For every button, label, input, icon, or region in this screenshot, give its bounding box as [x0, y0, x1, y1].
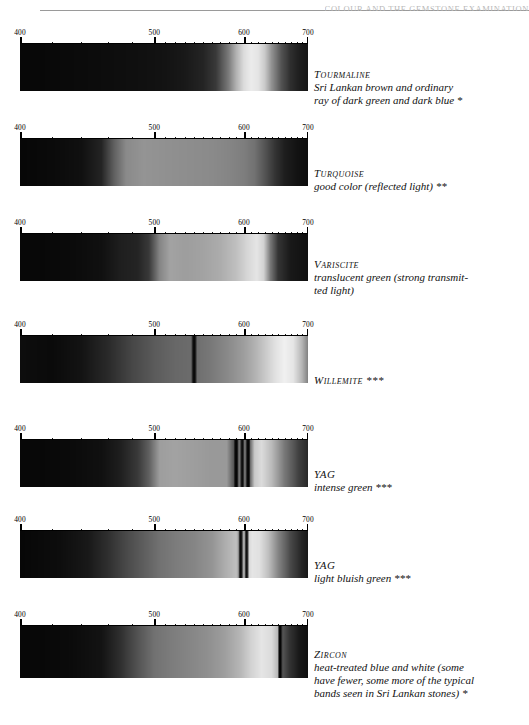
gemstone-description: good color (reflected light) **: [314, 180, 529, 193]
description-line: bands seen in Sri Lankan stones) *: [314, 687, 529, 700]
axis-tick-label: 500: [149, 515, 161, 524]
gemstone-name: Tourmaline: [314, 68, 529, 81]
description-line: light bluish green ***: [314, 572, 529, 585]
axis-tick-label: 400: [14, 123, 26, 132]
axis-tick-label: 500: [149, 218, 161, 227]
axis-tick-label: 700: [302, 424, 314, 433]
description-line: Willemite ***: [314, 374, 529, 387]
axis-tick-label: 400: [14, 424, 26, 433]
axis-tick-label: 600: [238, 123, 250, 132]
axis-tick-label: 700: [302, 320, 314, 329]
spectrum-bar: [20, 234, 308, 281]
spectrum-bar: [20, 440, 308, 487]
page-header-text: COLOUR AND THE GEMSTONE EXAMINATION: [325, 4, 529, 11]
axis-tick-label: 400: [14, 610, 26, 619]
description-line: ray of dark green and dark blue *: [314, 94, 529, 107]
description-line: intense green ***: [314, 481, 529, 494]
axis-tick-label: 600: [238, 515, 250, 524]
axis-tick-label: 600: [238, 610, 250, 619]
gemstone-description: light bluish green ***: [314, 572, 529, 585]
spectrum-caption: YAGlight bluish green ***: [314, 559, 529, 585]
gemstone-name: YAG: [314, 468, 529, 481]
spectrum-bar: [20, 531, 308, 578]
axis-tick-label: 700: [302, 515, 314, 524]
gemstone-description: Sri Lankan brown and ordinaryray of dark…: [314, 81, 529, 107]
axis-tick-label: 600: [238, 424, 250, 433]
axis-tick-label: 700: [302, 28, 314, 37]
axis-tick-label: 500: [149, 424, 161, 433]
description-line: Sri Lankan brown and ordinary: [314, 81, 529, 94]
gemstone-name: Variscite: [314, 258, 529, 271]
spectrum-bar: [20, 139, 308, 186]
gemstone-name: Zircon: [314, 648, 529, 661]
page-header-rule: COLOUR AND THE GEMSTONE EXAMINATION: [40, 10, 529, 11]
spectrum-bar: [20, 44, 308, 91]
description-line: have fewer, some more of the typical: [314, 674, 529, 687]
spectrum-caption: TourmalineSri Lankan brown and ordinaryr…: [314, 68, 529, 107]
axis-tick-label: 600: [238, 320, 250, 329]
gemstone-description: Willemite ***: [314, 374, 529, 387]
description-line: ted light): [314, 284, 529, 297]
spectrum-caption: Willemite ***: [314, 374, 529, 387]
spectra-page: COLOUR AND THE GEMSTONE EXAMINATION 4005…: [0, 0, 529, 725]
axis-tick-label: 700: [302, 123, 314, 132]
spectrum-caption: Variscitetranslucent green (strong trans…: [314, 258, 529, 297]
axis-tick-label: 500: [149, 610, 161, 619]
spectrum-bar: [20, 336, 308, 383]
axis-tick-label: 400: [14, 218, 26, 227]
axis-tick-label: 700: [302, 610, 314, 619]
spectrum-bar: [20, 626, 308, 678]
axis-tick-label: 500: [149, 320, 161, 329]
axis-tick-label: 700: [302, 218, 314, 227]
axis-tick-label: 400: [14, 28, 26, 37]
axis-tick-label: 400: [14, 515, 26, 524]
spectrum-caption: Turquoisegood color (reflected light) **: [314, 167, 529, 193]
axis-tick-label: 400: [14, 320, 26, 329]
description-line: heat-treated blue and white (some: [314, 661, 529, 674]
spectrum-caption: YAGintense green ***: [314, 468, 529, 494]
axis-tick-label: 600: [238, 218, 250, 227]
gemstone-description: translucent green (strong transmit-ted l…: [314, 271, 529, 297]
axis-tick-label: 500: [149, 28, 161, 37]
description-line: good color (reflected light) **: [314, 180, 529, 193]
description-line: translucent green (strong transmit-: [314, 271, 529, 284]
axis-tick-label: 600: [238, 28, 250, 37]
gemstone-name: Turquoise: [314, 167, 529, 180]
gemstone-description: intense green ***: [314, 481, 529, 494]
axis-tick-label: 500: [149, 123, 161, 132]
gemstone-description: heat-treated blue and white (somehave fe…: [314, 661, 529, 701]
gemstone-name: YAG: [314, 559, 529, 572]
spectrum-caption: Zirconheat-treated blue and white (someh…: [314, 648, 529, 701]
